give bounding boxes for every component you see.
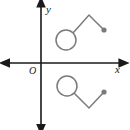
upper-shape — [56, 15, 107, 50]
lower-shape — [57, 76, 107, 108]
figure-canvas: x y O — [0, 0, 130, 130]
coordinate-plane-figure: x y O — [0, 0, 130, 130]
lower-shape-polyline — [74, 92, 104, 108]
lower-shape-endpoint-dot — [101, 89, 106, 94]
upper-shape-endpoint-dot — [101, 27, 106, 32]
y-axis-label: y — [45, 3, 51, 15]
upper-shape-polyline — [73, 15, 104, 33]
origin-label: O — [29, 65, 36, 76]
x-axis-label: x — [114, 63, 120, 75]
